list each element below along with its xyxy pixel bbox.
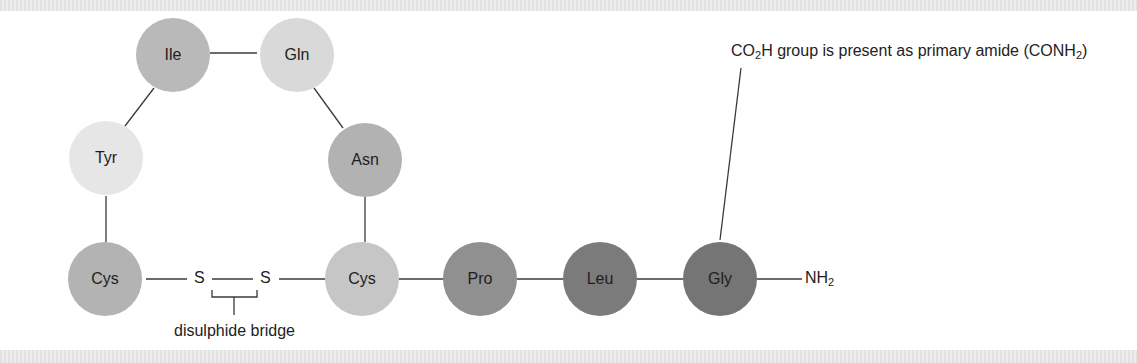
residue-label: Ile bbox=[165, 46, 182, 64]
residue-gln: Gln bbox=[260, 18, 334, 92]
terminal-amine-main: NH bbox=[805, 269, 828, 286]
residue-asn: Asn bbox=[328, 123, 402, 197]
annotation-part3: ) bbox=[1082, 42, 1087, 59]
residue-label: Cys bbox=[348, 270, 376, 288]
residue-leu: Leu bbox=[563, 242, 637, 316]
annotation-part2: H group is present as primary amide (CON… bbox=[761, 42, 1076, 59]
residue-ile: Ile bbox=[136, 18, 210, 92]
residue-label: Cys bbox=[91, 270, 119, 288]
amide-annotation: CO2H group is present as primary amide (… bbox=[731, 42, 1087, 61]
residue-label: Asn bbox=[351, 151, 379, 169]
sulfur-left: S bbox=[194, 269, 205, 287]
terminal-amine-subscript: 2 bbox=[828, 276, 834, 288]
residue-cys-left: Cys bbox=[68, 242, 142, 316]
residue-tyr: Tyr bbox=[69, 121, 143, 195]
residue-label: Pro bbox=[468, 270, 493, 288]
residue-pro: Pro bbox=[443, 242, 517, 316]
disulphide-bridge-label: disulphide bridge bbox=[174, 322, 295, 340]
residue-label: Gln bbox=[285, 46, 310, 64]
residue-label: Leu bbox=[587, 270, 614, 288]
residue-cys-right: Cys bbox=[325, 242, 399, 316]
residue-label: Tyr bbox=[95, 149, 117, 167]
residue-gly: Gly bbox=[683, 242, 757, 316]
residue-label: Gly bbox=[708, 270, 732, 288]
terminal-amine: NH2 bbox=[805, 269, 834, 288]
annotation-part1: CO bbox=[731, 42, 755, 59]
sulfur-right: S bbox=[260, 269, 271, 287]
